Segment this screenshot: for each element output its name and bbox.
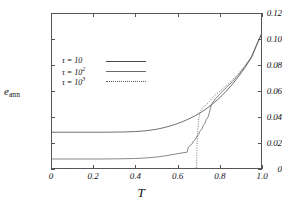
legend-item-label: τ = 10 bbox=[62, 57, 106, 65]
legend-line-sample bbox=[106, 77, 146, 85]
x-tick-mark bbox=[51, 165, 52, 169]
x-tick-label: 0 bbox=[31, 172, 71, 181]
y-tick-mark bbox=[51, 39, 55, 40]
x-tick-label: 0.2 bbox=[73, 172, 113, 181]
y-tick-mark-right bbox=[258, 117, 262, 118]
x-tick-mark bbox=[262, 165, 263, 169]
chart-curves bbox=[51, 13, 262, 169]
y-tick-mark bbox=[51, 65, 55, 66]
x-axis-label: T bbox=[0, 186, 282, 199]
y-tick-mark-right bbox=[258, 169, 262, 170]
y-tick-mark bbox=[51, 117, 55, 118]
y-axis-label-subscript: ann bbox=[9, 90, 20, 99]
y-tick-mark bbox=[51, 91, 55, 92]
x-tick-mark-top bbox=[93, 13, 94, 17]
y-tick-mark bbox=[51, 169, 55, 170]
x-tick-label: 1.0 bbox=[242, 172, 282, 181]
x-tick-mark-top bbox=[178, 13, 179, 17]
x-tick-mark bbox=[178, 165, 179, 169]
legend-line-sample bbox=[106, 67, 146, 75]
chart-figure: 00.020.040.060.080.100.12 00.20.40.60.81… bbox=[0, 0, 282, 211]
y-tick-mark bbox=[51, 143, 55, 144]
y-tick-mark-right bbox=[258, 91, 262, 92]
x-tick-mark-top bbox=[135, 13, 136, 17]
x-tick-mark bbox=[93, 165, 94, 169]
series-line bbox=[51, 33, 262, 169]
series-line bbox=[51, 33, 262, 159]
y-axis-label: eann bbox=[4, 86, 20, 100]
legend-item-label: τ = 103 bbox=[62, 75, 106, 87]
x-tick-label: 0.4 bbox=[115, 172, 155, 181]
chart-legend: τ = 10τ = 102τ = 103 bbox=[62, 56, 154, 86]
legend-item: τ = 103 bbox=[62, 76, 154, 86]
x-tick-mark-top bbox=[51, 13, 52, 17]
x-tick-mark-top bbox=[262, 13, 263, 17]
y-tick-mark-right bbox=[258, 39, 262, 40]
y-tick-mark-right bbox=[258, 143, 262, 144]
y-tick-mark-right bbox=[258, 65, 262, 66]
x-tick-mark bbox=[135, 165, 136, 169]
legend-line-sample bbox=[106, 57, 146, 65]
x-tick-mark bbox=[220, 165, 221, 169]
x-tick-label: 0.8 bbox=[200, 172, 240, 181]
x-tick-mark-top bbox=[220, 13, 221, 17]
x-tick-label: 0.6 bbox=[158, 172, 198, 181]
